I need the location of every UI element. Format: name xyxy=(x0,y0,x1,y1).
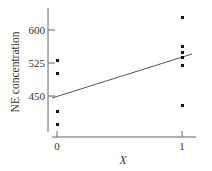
points-x0 xyxy=(56,59,59,126)
points-x1 xyxy=(181,16,184,107)
fitted-line xyxy=(52,54,192,98)
x-axis-title: X xyxy=(118,154,127,166)
data-point xyxy=(181,64,184,67)
x-tick-label-1: 1 xyxy=(179,140,185,152)
data-point xyxy=(181,45,184,48)
data-point xyxy=(181,104,184,107)
data-point xyxy=(181,56,184,59)
y-tick-label-525: 525 xyxy=(29,57,46,69)
data-point xyxy=(56,123,59,126)
y-tick-label-450: 450 xyxy=(29,90,46,102)
data-point xyxy=(181,16,184,19)
data-point xyxy=(56,59,59,62)
chart: 600 525 450 0 1 NE concentration X xyxy=(0,0,212,171)
data-point xyxy=(56,72,59,75)
data-point xyxy=(56,110,59,113)
y-axis-title: NE concentration xyxy=(9,31,21,112)
data-point xyxy=(181,51,184,54)
y-tick-label-600: 600 xyxy=(29,24,46,36)
x-tick-label-0: 0 xyxy=(54,140,60,152)
